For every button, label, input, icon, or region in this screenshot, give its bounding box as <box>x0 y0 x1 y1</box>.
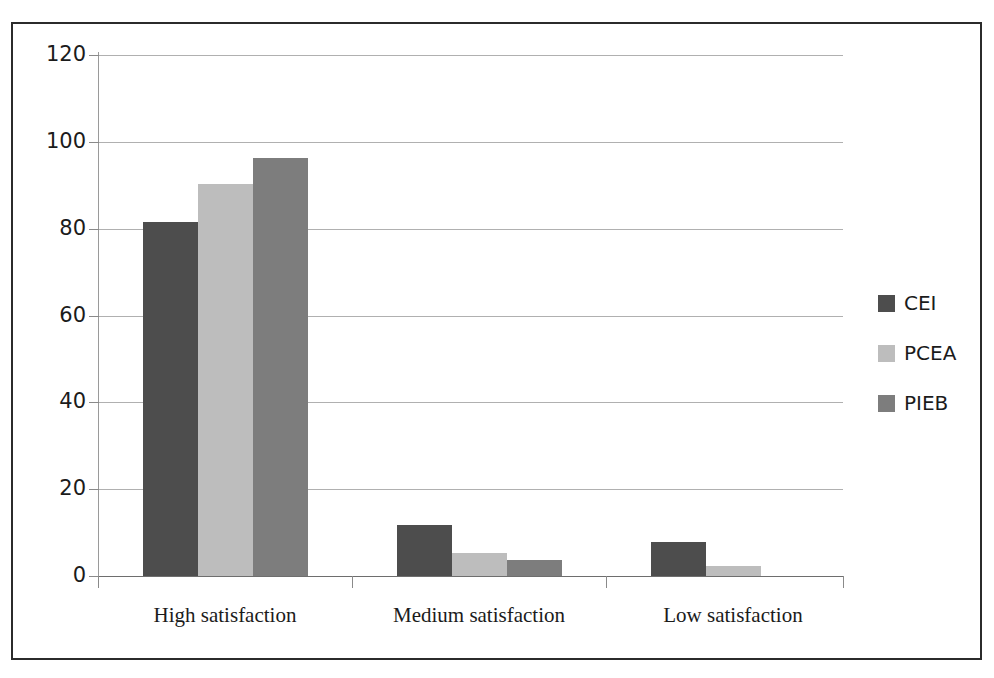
legend-swatch-icon-pcea <box>878 345 895 362</box>
legend-item-cei: CEI <box>878 278 973 328</box>
category-label-2: Low satisfaction <box>606 603 860 628</box>
bar-cei-0 <box>143 222 198 576</box>
bar-pcea-2 <box>706 566 761 576</box>
legend-swatch-icon-pieb <box>878 395 895 412</box>
y-axis-tick-labels: 020406080100120 <box>8 0 86 678</box>
category-label-1: Medium satisfaction <box>352 603 606 628</box>
x-tick-mark-1 <box>352 576 353 588</box>
plot-area <box>98 55 843 576</box>
x-tick-mark-2 <box>606 576 607 588</box>
x-tick-mark-3 <box>843 576 844 588</box>
y-tick-label-60: 60 <box>16 305 86 326</box>
bar-pcea-1 <box>452 553 507 576</box>
legend-swatch-icon-cei <box>878 295 895 312</box>
legend-item-pieb: PIEB <box>878 378 973 428</box>
y-tick-label-120: 120 <box>16 44 86 65</box>
bar-cei-2 <box>651 542 706 576</box>
y-tick-label-100: 100 <box>16 131 86 152</box>
y-tick-label-0: 0 <box>16 565 86 586</box>
chart-legend: CEIPCEAPIEB <box>878 278 973 428</box>
y-tick-label-20: 20 <box>16 478 86 499</box>
bar-pcea-0 <box>198 184 253 576</box>
category-label-0: High satisfaction <box>98 603 352 628</box>
legend-label-pieb: PIEB <box>904 393 948 413</box>
bar-cei-1 <box>397 525 452 576</box>
y-tick-label-40: 40 <box>16 391 86 412</box>
legend-label-cei: CEI <box>904 293 937 313</box>
chart-figure: 020406080100120 High satisfactionMedium … <box>0 0 994 678</box>
y-tick-label-80: 80 <box>16 218 86 239</box>
legend-item-pcea: PCEA <box>878 328 973 378</box>
legend-label-pcea: PCEA <box>904 343 956 363</box>
x-tick-mark-0 <box>98 576 99 588</box>
x-axis-line <box>98 576 844 577</box>
bar-pieb-0 <box>253 158 308 576</box>
bar-pieb-1 <box>507 560 562 576</box>
